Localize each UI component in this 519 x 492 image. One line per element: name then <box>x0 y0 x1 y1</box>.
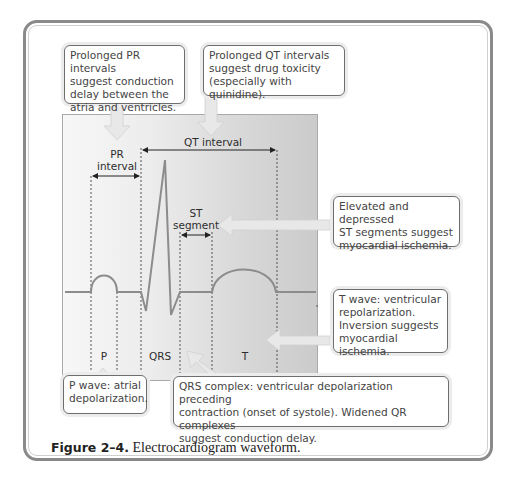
pr-interval-callout: Prolonged PR intervals suggest conductio… <box>64 45 185 104</box>
pr-interval-label: PR interval <box>94 148 140 172</box>
figure-caption: Figure 2–4. Electrocardiogram waveform. <box>51 440 300 456</box>
p-wave-callout: P wave: atrial depolarization. <box>63 375 147 414</box>
qrs-complex-callout: QRS complex: ventricular depolarization … <box>173 376 449 427</box>
qt-interval-label: QT interval <box>178 136 248 148</box>
st-segment-callout: Elevated and depressed ST segments sugge… <box>333 196 460 247</box>
t-label: T <box>238 350 252 362</box>
ecg-trace <box>65 160 316 315</box>
t-wave-callout: T wave: ventricular repolarization. Inve… <box>333 289 448 353</box>
st-segment-label: ST segment <box>173 207 219 231</box>
interval-guides <box>91 148 277 380</box>
qt-interval-callout: Prolonged QT intervals suggest drug toxi… <box>203 45 345 96</box>
p-label: P <box>96 350 112 362</box>
qrs-label: QRS <box>146 350 174 362</box>
figure-title: Electrocardiogram waveform. <box>129 440 300 455</box>
figure-number: Figure 2–4. <box>51 440 129 455</box>
